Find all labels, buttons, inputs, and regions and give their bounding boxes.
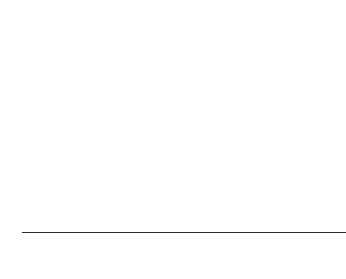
bar-chart bbox=[0, 0, 346, 279]
y-axis-label bbox=[0, 0, 18, 231]
x-axis-category-labels bbox=[20, 235, 346, 263]
plot-area bbox=[20, 0, 346, 233]
x-axis-baseline bbox=[22, 232, 346, 233]
